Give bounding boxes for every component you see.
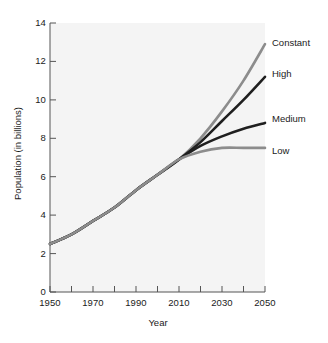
y-tick-label-14: 14 [24,17,46,28]
series-label-constant: Constant [272,37,310,48]
y-tick-label-2: 2 [24,248,46,259]
x-tick-label-2050: 2050 [245,297,285,308]
y-tick-label-4: 4 [24,209,46,220]
x-tick-label-1990: 1990 [116,297,156,308]
population-projection-chart: 14 12 10 8 6 4 2 0 1950 1970 1990 2010 2… [0,0,328,343]
y-tick-label-6: 6 [24,171,46,182]
x-tick-label-2010: 2010 [159,297,199,308]
x-tick-label-1970: 1970 [73,297,113,308]
y-tick-label-12: 12 [24,55,46,66]
y-axis-title: Population (in billions) [12,99,23,209]
series-label-low: Low [272,145,289,156]
y-tick-label-10: 10 [24,94,46,105]
series-label-medium: Medium [272,113,306,124]
series-label-high: High [272,68,292,79]
y-tick-label-0: 0 [24,286,46,297]
y-tick-label-8: 8 [24,132,46,143]
plot-area-background [50,23,265,292]
x-tick-label-2030: 2030 [202,297,242,308]
chart-canvas [0,0,328,343]
x-tick-label-1950: 1950 [30,297,70,308]
x-axis-title: Year [137,317,179,328]
